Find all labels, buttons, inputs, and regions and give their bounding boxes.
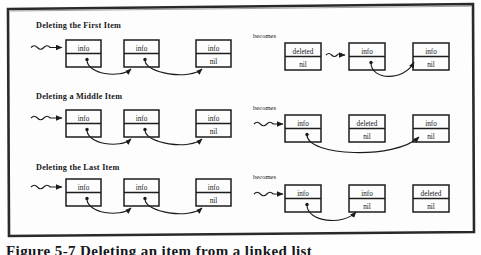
node-info-label: info bbox=[425, 48, 437, 56]
node-nil-label: nil bbox=[363, 133, 371, 141]
node-deleted-label: deleted bbox=[421, 190, 442, 198]
node-info-label: info bbox=[136, 184, 148, 192]
row-title: Deleting a Middle Item bbox=[36, 92, 122, 101]
node-info-label: info bbox=[136, 115, 148, 123]
node-info-label: info bbox=[208, 115, 220, 123]
node-deleted-label: deleted bbox=[293, 48, 314, 56]
node-info-label: info bbox=[361, 48, 373, 56]
node-nil-label: nil bbox=[363, 203, 371, 211]
row-title: Deleting the Last Item bbox=[36, 163, 120, 172]
node-nil-label: nil bbox=[210, 58, 218, 66]
node-info-label: info bbox=[297, 190, 309, 198]
node-deleted-label: deleted bbox=[357, 120, 378, 128]
node-nil-label: nil bbox=[210, 128, 218, 136]
node-info-label: info bbox=[208, 184, 220, 192]
node-info-label: info bbox=[208, 45, 220, 53]
linked-list-deletion-diagram: Deleting the First Item info info bbox=[0, 0, 481, 255]
node-info-label: info bbox=[425, 120, 437, 128]
node-info-label: info bbox=[78, 45, 90, 53]
node-info-label: info bbox=[361, 190, 373, 198]
becomes-label: becomes bbox=[253, 32, 277, 39]
becomes-label: becomes bbox=[253, 173, 277, 180]
node-nil-label: nil bbox=[299, 61, 307, 69]
node-info-label: info bbox=[78, 184, 90, 192]
node-info-label: info bbox=[136, 45, 148, 53]
becomes-label: becomes bbox=[253, 104, 277, 111]
node-info-label: info bbox=[297, 120, 309, 128]
node-info-label: info bbox=[78, 115, 90, 123]
figure-caption: Figure 5-7 Deleting an item from a linke… bbox=[6, 243, 312, 255]
row-title: Deleting the First Item bbox=[36, 21, 121, 30]
node-nil-label: nil bbox=[427, 133, 435, 141]
node-nil-label: nil bbox=[210, 197, 218, 205]
node-nil-label: nil bbox=[427, 61, 435, 69]
node-nil-label: nil bbox=[427, 203, 435, 211]
figure-container: Deleting the First Item info info bbox=[0, 0, 481, 255]
